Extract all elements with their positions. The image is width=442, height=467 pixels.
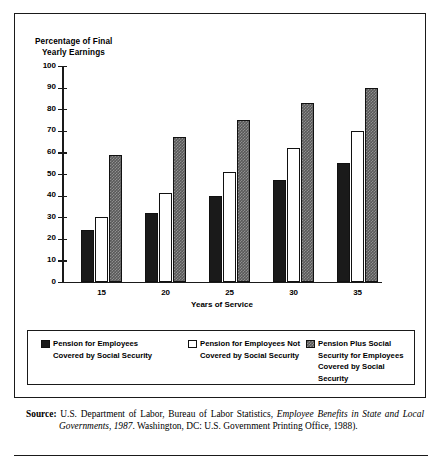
bar [95,217,108,282]
source-note: Source: U.S. Department of Labor, Bureau… [26,408,424,433]
bar-group [145,66,186,282]
bar-group [209,66,250,282]
bar [287,148,300,282]
y-tick-label: 30 [47,212,56,221]
legend-item-pension-covered: Pension for Employees Covered by Social … [41,338,181,361]
y-tick-label: 60 [47,147,56,156]
y-axis-title: Percentage of Final Yearly Earnings [35,36,112,58]
source-text-part-1: U.S. Department of Labor, Bureau of Labo… [60,409,276,419]
legend-item-label: Pension Plus Social Security for Employe… [318,338,414,384]
bottom-divider [14,455,428,456]
bar [145,213,158,282]
plot-area: 0102030405060708090100 1520253035 Years … [62,66,382,284]
y-tick-mark [58,282,67,283]
y-tick-label: 20 [47,233,56,242]
bar [273,180,286,282]
y-tick-label: 50 [47,169,56,178]
bars-layer [64,66,382,282]
y-tick-label: 0 [52,277,56,286]
y-tick-label: 100 [43,61,56,70]
white-square-icon [188,340,197,349]
legend: Pension for Employees Covered by Social … [27,330,415,385]
bar-group [337,66,378,282]
bar [301,103,314,282]
x-tick-label: 30 [274,288,314,297]
bar [351,131,364,282]
x-axis-title: Years of Service [62,300,382,309]
x-tick-label: 35 [338,288,378,297]
y-tick-label: 40 [47,190,56,199]
legend-item-label: Pension for Employees Covered by Social … [53,338,181,361]
source-text-part-2: . Washington, DC: U.S. Government Printi… [132,421,357,431]
bar [159,193,172,282]
bar [237,120,250,282]
bar [365,88,378,282]
bar [223,172,236,282]
bar [81,230,94,282]
x-tick-label: 25 [210,288,250,297]
bar-group [81,66,122,282]
y-tick-label: 70 [47,125,56,134]
bar [209,196,222,282]
bar [173,137,186,282]
gray-hatched-square-icon [306,340,315,349]
legend-item-pension-plus-social-security: Pension Plus Social Security for Employe… [306,338,414,384]
y-tick-label: 10 [47,255,56,264]
x-tick-label: 15 [82,288,122,297]
source-prefix: Source: [26,409,57,419]
y-tick-label: 90 [47,82,56,91]
bar [109,155,122,282]
black-square-icon [41,340,50,349]
bar [337,163,350,282]
bar-group [273,66,314,282]
x-tick-label: 20 [146,288,186,297]
y-tick-label: 80 [47,104,56,113]
